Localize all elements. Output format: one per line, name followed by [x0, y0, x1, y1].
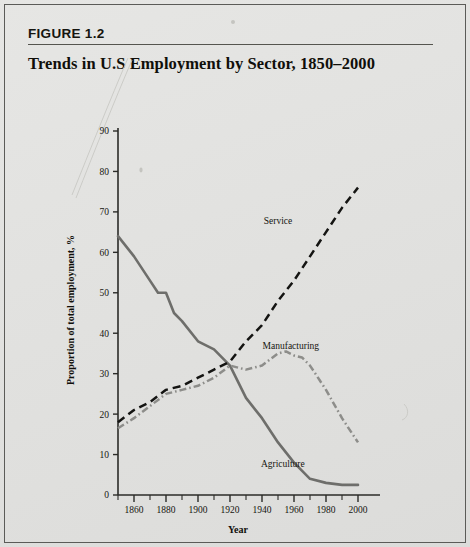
y-tick-label: 80: [100, 167, 110, 177]
series-line-manufacturing: [118, 351, 358, 442]
x-tick-label: 1920: [221, 505, 240, 515]
data-series-group: [118, 188, 358, 485]
y-tick-label: 0: [104, 490, 109, 500]
x-tick-label: 2000: [349, 505, 368, 515]
series-label-manufacturing: Manufacturing: [263, 341, 320, 351]
x-tick-label: 1880: [157, 505, 176, 515]
chart-plot-area: 0102030405060708090 18601880190019201940…: [0, 0, 470, 547]
figure-page: FIGURE 1.2 Trends in U.S Employment by S…: [0, 0, 470, 547]
x-tick-label: 1960: [285, 505, 304, 515]
line-chart: 0102030405060708090 18601880190019201940…: [0, 0, 470, 547]
y-tick-label: 50: [100, 288, 110, 298]
series-line-service: [118, 188, 358, 423]
scan-artifacts: [72, 20, 408, 420]
series-label-agriculture: Agriculture: [261, 459, 305, 469]
series-label-service: Service: [264, 216, 293, 226]
x-axis: 18601880190019201940196019802000: [118, 495, 380, 515]
y-tick-label: 90: [100, 126, 110, 136]
y-tick-label: 20: [100, 410, 110, 420]
y-tick-label: 10: [100, 450, 110, 460]
scan-speck: [231, 20, 235, 24]
y-tick-label: 30: [100, 369, 110, 379]
x-tick-label: 1900: [189, 505, 208, 515]
y-tick-label: 60: [100, 248, 110, 258]
x-tick-label: 1860: [125, 505, 144, 515]
y-tick-label: 40: [100, 329, 110, 339]
scan-speck: [139, 168, 142, 173]
scan-scratch: [402, 404, 408, 420]
x-axis-title: Year: [228, 524, 249, 535]
x-tick-label: 1980: [317, 505, 336, 515]
y-tick-label: 70: [100, 207, 110, 217]
y-axis: 0102030405060708090: [100, 126, 119, 500]
y-axis-title: Proportion of total employment, %: [65, 235, 76, 385]
x-tick-label: 1940: [253, 505, 272, 515]
series-line-agriculture: [118, 236, 358, 485]
